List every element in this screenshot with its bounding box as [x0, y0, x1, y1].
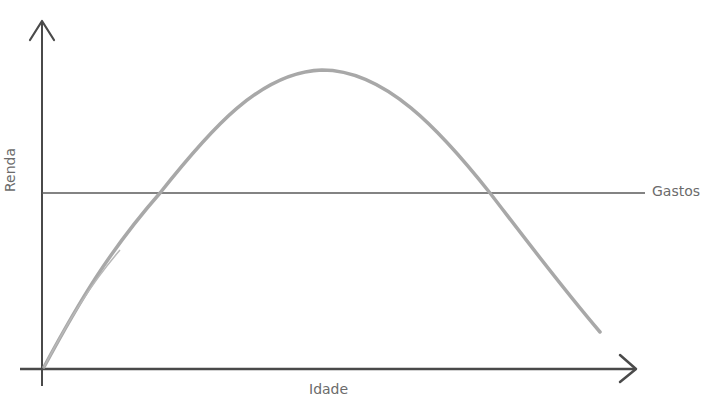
renda-curve: [44, 70, 600, 367]
income-age-diagram: [0, 0, 724, 419]
x-axis-label: Idade: [309, 381, 348, 397]
y-axis-label: Renda: [2, 148, 18, 192]
gastos-label: Gastos: [652, 183, 700, 199]
